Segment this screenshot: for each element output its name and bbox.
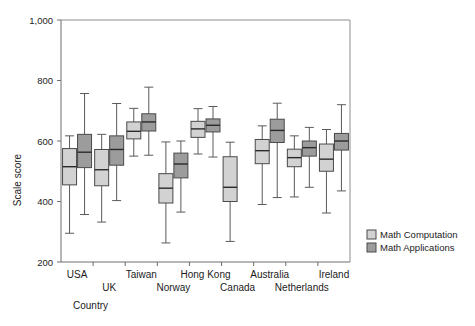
box-iqr [302,141,316,156]
y-tick-label: 800 [37,75,53,86]
box-iqr [174,153,188,178]
box-plot-box [127,108,141,156]
box-plot-box [63,136,77,233]
box-iqr [127,122,141,139]
box-plot-box [191,109,205,154]
box-plot-box [270,103,284,197]
box-iqr [319,144,333,171]
box-iqr [95,149,109,185]
box-plot-box [302,127,316,187]
box-iqr [110,136,124,165]
legend-label-math-applications: Math Applications [380,242,455,253]
x-category-label: Taiwan [126,269,157,280]
y-tick-label: 200 [37,257,53,268]
box-plot-box [95,134,109,222]
box-plot-box [78,94,92,215]
box-plot-box [223,142,237,241]
box-plot-box [255,126,269,205]
y-tick-label: 600 [37,136,53,147]
x-category-label: USA [67,269,88,280]
box-iqr [255,139,269,163]
y-axis-title: Scale score [12,153,23,206]
x-category-label: UK [102,282,116,293]
box-plot-box [142,87,156,155]
box-plot-box [159,142,173,243]
box-plot-box [206,107,220,158]
x-category-label: Canada [220,282,255,293]
x-category-label: Netherlands [275,282,329,293]
y-tick-label: 400 [37,196,53,207]
box-iqr [334,133,348,150]
box-plot-box [110,103,124,200]
x-axis-title: Country [73,300,108,311]
x-category-label: Australia [250,269,289,280]
legend-label-math-computation: Math Computation [380,229,458,240]
box-iqr [223,157,237,202]
x-category-label: Ireland [319,269,350,280]
box-plot-box [319,130,333,213]
x-category-label: Hong Kong [180,269,230,280]
chart-canvas: 2004006008001,000USAUKTaiwanNorwayHong K… [0,0,475,326]
y-tick-label: 1,000 [29,15,53,26]
box-plot-chart: 2004006008001,000USAUKTaiwanNorwayHong K… [0,0,475,326]
legend-swatch-math-applications [367,243,376,252]
box-plot-box [287,136,301,197]
legend-swatch-math-computation [367,230,376,239]
x-category-label: Norway [156,282,190,293]
box-plot-box [174,141,188,212]
box-plot-box [334,105,348,191]
box-iqr [78,134,92,167]
